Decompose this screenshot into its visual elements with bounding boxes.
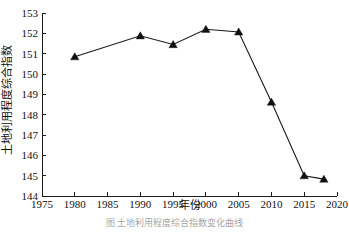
x-tick-label: 1985	[97, 198, 120, 210]
data-point-markers	[71, 25, 329, 182]
y-tick-label: 152	[22, 27, 39, 39]
x-tick-label: 2005	[228, 198, 251, 210]
x-tick-label: 2020	[326, 198, 349, 210]
figure-caption: 图 土地利用程度综合指数变化曲线	[0, 218, 349, 229]
x-axis-tick-marks	[42, 192, 337, 196]
line-chart-svg: 144145146147148149150151152153 197519801…	[0, 0, 349, 212]
y-tick-label: 150	[22, 68, 39, 80]
y-tick-label: 146	[22, 149, 39, 161]
y-tick-label: 153	[22, 7, 39, 19]
chart-plot-area: 144145146147148149150151152153 197519801…	[0, 0, 349, 212]
x-tick-label: 2015	[293, 198, 316, 210]
y-tick-label: 147	[22, 129, 39, 141]
y-tick-label: 149	[22, 88, 39, 100]
y-axis-tick-marks	[42, 13, 46, 196]
data-point-marker	[202, 25, 210, 32]
data-point-marker	[300, 172, 308, 179]
x-tick-label: 1975	[31, 198, 54, 210]
axis-frame	[42, 13, 337, 196]
x-axis-title: 年份	[179, 198, 201, 211]
y-tick-label: 145	[22, 170, 39, 182]
data-point-marker	[267, 98, 275, 105]
x-tick-label: 1980	[64, 198, 87, 210]
figure-container: 144145146147148149150151152153 197519801…	[0, 0, 349, 234]
data-point-marker	[136, 32, 144, 39]
y-axis-tick-labels: 144145146147148149150151152153	[22, 7, 39, 202]
y-tick-label: 151	[22, 48, 39, 60]
x-tick-label: 1990	[129, 198, 152, 210]
x-tick-label: 2010	[260, 198, 283, 210]
y-axis-title: 土地利用程度综合指数	[0, 45, 13, 155]
data-series-line	[75, 29, 324, 179]
y-tick-label: 148	[22, 109, 39, 121]
